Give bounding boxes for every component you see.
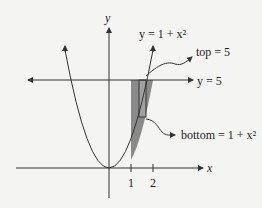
bottom-pointer [146,119,175,135]
x-axis-label: x [207,162,212,174]
bottom-label: bottom = 1 + x² [181,129,256,141]
tick-label-2: 2 [150,177,156,189]
y-axis-label: y [105,12,110,24]
tick-label-1: 1 [128,177,134,189]
top-label: top = 5 [196,46,230,58]
diagram: y y = 1 + x² top = 5 y = 5 bottom = 1 + … [0,0,262,208]
line-label: y = 5 [197,75,222,87]
top-pointer [146,57,192,76]
curve-label: y = 1 + x² [139,28,186,40]
